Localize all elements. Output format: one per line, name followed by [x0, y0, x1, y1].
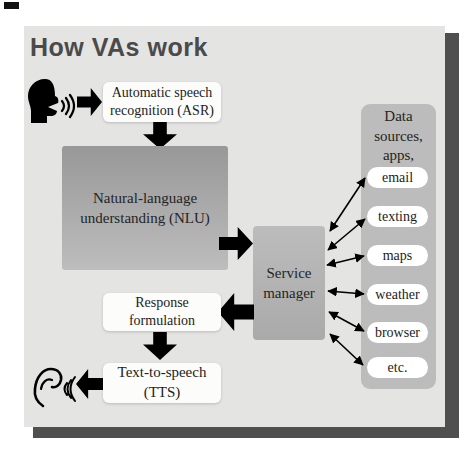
pill-etc: etc. — [367, 357, 428, 378]
response-formulation-box: Response formulation — [103, 293, 221, 331]
diagram-how-vas-work: How VAs work Automatic speech recognitio… — [0, 0, 474, 457]
pill-email: email — [367, 167, 428, 188]
asr-box: Automatic speech recognition (ASR) — [103, 82, 221, 122]
service-manager-box: Service manager — [253, 226, 325, 340]
corner-mark — [4, 2, 19, 9]
pill-maps: maps — [367, 245, 428, 266]
listening-ear-icon — [31, 364, 77, 410]
pill-weather: weather — [367, 284, 428, 305]
speaking-head-icon — [25, 77, 77, 125]
tts-box: Text-to-speech (TTS) — [103, 363, 221, 403]
pill-browser: browser — [367, 322, 428, 343]
pill-texting: texting — [367, 206, 428, 227]
nlu-box: Natural-language understanding (NLU) — [62, 146, 228, 270]
page-title: How VAs work — [30, 33, 208, 62]
